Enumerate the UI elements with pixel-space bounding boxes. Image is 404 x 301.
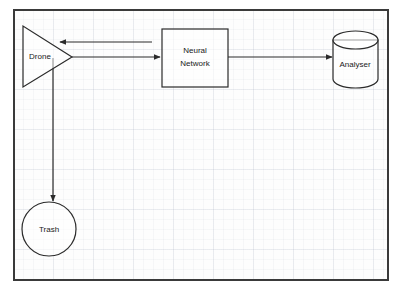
rectangle-shape — [162, 29, 228, 87]
node-trash[interactable]: Trash — [22, 202, 76, 256]
node-neural-network-label-line1: Neural — [183, 46, 207, 55]
node-drone[interactable]: Drone — [23, 26, 72, 87]
node-neural-network[interactable]: Neural Network — [162, 29, 228, 87]
diagram-canvas: Drone Neural Network Analyser Trash — [0, 0, 404, 301]
node-analyser-label: Analyser — [339, 60, 370, 69]
node-neural-network-label-line2: Network — [180, 59, 210, 68]
node-analyser[interactable]: Analyser — [333, 31, 378, 88]
diagram-screenshot: Drone Neural Network Analyser Trash — [0, 0, 404, 301]
node-trash-label: Trash — [39, 225, 59, 234]
cylinder-top — [333, 31, 378, 49]
node-drone-label: Drone — [29, 52, 51, 61]
